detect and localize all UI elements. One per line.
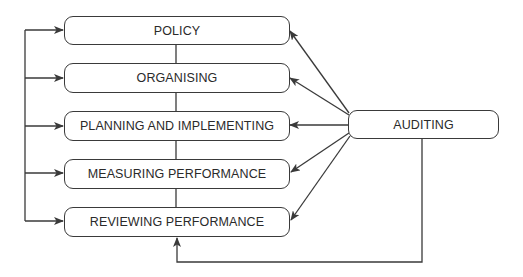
audit-arrow-policy (290, 31, 349, 113)
audit-arrow-reviewing (291, 136, 350, 220)
stage-planning-label: PLANNING AND IMPLEMENTING (80, 119, 274, 133)
stage-organising-box: ORGANISING (64, 63, 290, 93)
stage-policy-label: POLICY (154, 24, 200, 38)
audit-return-path (177, 138, 422, 262)
stage-measuring-label: MEASURING PERFORMANCE (88, 167, 267, 181)
audit-arrow-organising (290, 78, 349, 115)
stage-organising-label: ORGANISING (137, 71, 218, 85)
stage-measuring-box: MEASURING PERFORMANCE (64, 159, 290, 189)
audit-arrow-measuring (291, 133, 349, 172)
auditing-label: AUDITING (393, 118, 454, 132)
auditing-box: AUDITING (348, 110, 499, 139)
stage-reviewing-box: REVIEWING PERFORMANCE (64, 207, 290, 237)
stage-reviewing-label: REVIEWING PERFORMANCE (90, 215, 264, 229)
stage-policy-box: POLICY (64, 16, 290, 45)
stage-planning-box: PLANNING AND IMPLEMENTING (64, 111, 290, 141)
